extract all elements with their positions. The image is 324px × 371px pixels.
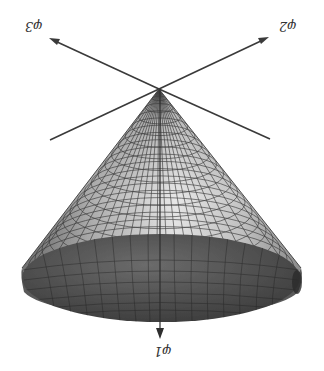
cone-diagram: [0, 0, 324, 371]
cone-base: [21, 234, 302, 322]
axis-phi3: [55, 41, 159, 89]
label-phi2: φ2: [279, 20, 296, 33]
label-phi1: φ1: [154, 345, 171, 358]
label-phi3: φ3: [25, 20, 42, 33]
arrowhead-phi2-icon: [258, 37, 269, 44]
arrowhead-phi1-icon: [156, 328, 164, 339]
axis-phi2: [159, 40, 263, 89]
arrowhead-phi3-icon: [49, 38, 60, 45]
